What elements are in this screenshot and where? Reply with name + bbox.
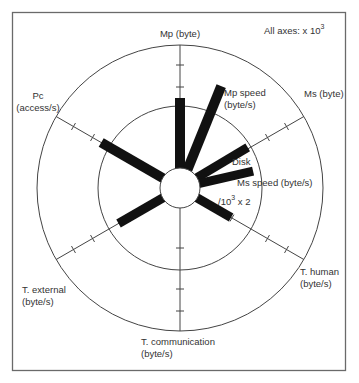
axis-label-t-communication: T. communication(byte/s) (141, 336, 215, 359)
axis-tick (265, 235, 269, 242)
axis-tick (71, 246, 75, 253)
bar-label-disk: Disk (232, 156, 251, 167)
axis-label-ms: Ms (byte) (304, 88, 344, 99)
axis-label-t-human: T. human(byte/s) (300, 266, 339, 289)
bar-label-ms-speed: Ms speed (byte/s) (237, 177, 313, 188)
bar-t-external (119, 197, 165, 224)
axis-tick (265, 134, 269, 141)
axis-tick (71, 123, 75, 130)
bar-label-mp-speed: Mp speed(byte/s) (224, 87, 266, 110)
axis-tick (285, 123, 289, 130)
axis-tick (91, 134, 95, 141)
scale-note: All axes: x 103 (264, 23, 325, 36)
axis-tick (285, 246, 289, 253)
axis-tick (91, 235, 95, 242)
bar-mp-speed (187, 86, 221, 171)
bar-label-t-human: /103 x 2 (218, 194, 250, 207)
radar-diagram: Mp (byte)Ms (byte)T. human(byte/s)T. com… (0, 0, 359, 383)
axis-label-t-external: T. external(byte/s) (22, 284, 66, 307)
axis-label-pc: Pc(access/s) (16, 90, 59, 113)
axis-label-mp: Mp (byte) (160, 28, 200, 39)
hub-circle (160, 168, 200, 208)
hub (160, 168, 200, 208)
scale-exponent: 3 (321, 23, 325, 30)
bar-pc (101, 143, 164, 180)
